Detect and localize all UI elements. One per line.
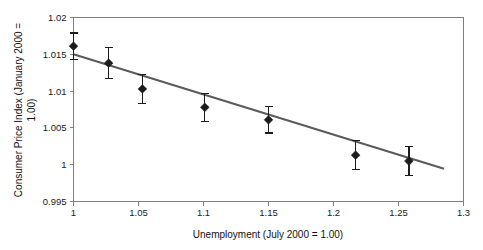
scatter-plot-svg: 1.021.0151.011.00510.995 11.051.11.151.2… xyxy=(0,0,483,250)
data-point xyxy=(264,107,273,133)
trend-line-group xyxy=(74,54,445,168)
y-axis-title-line2: 1.00) xyxy=(26,99,37,122)
diamond-marker xyxy=(200,103,209,112)
y-axis-ticks: 1.021.0151.011.00510.995 xyxy=(43,12,74,207)
y-tick-label: 1.015 xyxy=(43,49,67,60)
data-point xyxy=(200,93,209,121)
data-point xyxy=(351,140,360,169)
x-tick-label: 1.1 xyxy=(197,207,210,218)
y-tick-label: 0.995 xyxy=(43,196,67,207)
diamond-marker xyxy=(138,84,147,93)
data-point xyxy=(104,48,113,79)
x-tick-label: 1.3 xyxy=(457,207,470,218)
x-axis-title: Unemployment (July 2000 = 1.00) xyxy=(193,229,343,240)
x-tick-label: 1.25 xyxy=(389,207,408,218)
x-tick-label: 1.2 xyxy=(327,207,340,218)
y-tick-label: 1.02 xyxy=(48,12,67,23)
y-tick-label: 1 xyxy=(61,159,66,170)
diamond-marker xyxy=(351,151,360,160)
data-point xyxy=(405,146,414,175)
x-tick-label: 1.15 xyxy=(259,207,278,218)
y-tick-label: 1.005 xyxy=(43,122,67,133)
regression-trend-line xyxy=(74,54,445,168)
data-point xyxy=(138,74,147,103)
diamond-marker xyxy=(264,115,273,124)
x-tick-label: 1.05 xyxy=(129,207,148,218)
diamond-marker xyxy=(69,42,78,51)
x-axis-ticks: 11.051.11.151.21.251.3 xyxy=(71,202,470,218)
y-axis-title-line1: Consumer Price Index (January 2000 = xyxy=(13,23,24,197)
x-tick-label: 1 xyxy=(71,207,76,218)
data-points-group xyxy=(69,33,413,176)
chart-container: 1.021.0151.011.00510.995 11.051.11.151.2… xyxy=(0,0,483,250)
y-tick-label: 1.01 xyxy=(48,86,67,97)
